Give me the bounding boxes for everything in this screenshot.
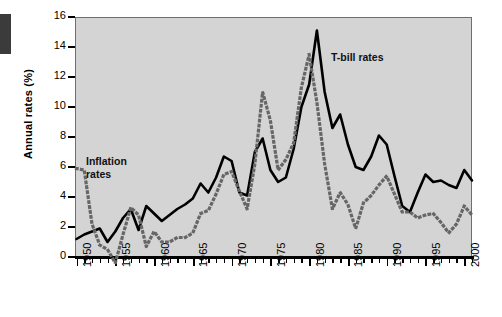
annotation-line: Inflation (86, 155, 127, 168)
annotation-t-bill-rates: T-bill rates (331, 51, 384, 64)
annotation-line: rates (86, 168, 127, 181)
chart-root: Annual rates (%) 0246810121416 195019551… (0, 0, 502, 317)
annotation-inflation-rates: Inflationrates (86, 155, 127, 181)
series-line-inflation-rates (77, 55, 473, 264)
series-layer (0, 0, 502, 317)
